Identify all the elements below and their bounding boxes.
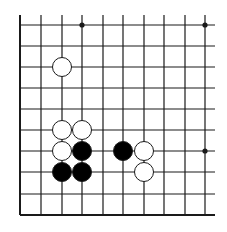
white-stone — [53, 121, 72, 140]
star-point — [79, 22, 84, 27]
grid-lines — [20, 15, 215, 215]
white-stone — [53, 142, 72, 161]
white-stone — [135, 163, 154, 182]
black-stone — [73, 163, 92, 182]
white-stone — [53, 58, 72, 77]
white-stone — [135, 142, 154, 161]
star-point — [202, 148, 207, 153]
go-board — [0, 0, 227, 232]
black-stone — [73, 142, 92, 161]
white-stone — [73, 121, 92, 140]
star-point — [202, 22, 207, 27]
black-stone — [114, 142, 133, 161]
black-stone — [53, 163, 72, 182]
